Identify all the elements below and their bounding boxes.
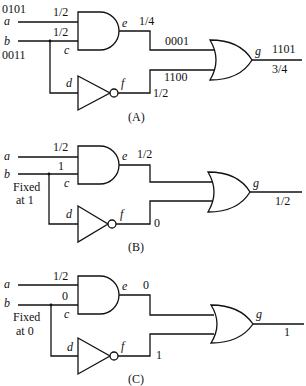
input-b-label: b xyxy=(4,167,10,181)
wire-f xyxy=(118,334,214,356)
node-g-label: g xyxy=(256,307,262,321)
panel-b: a 1/2 b 1 Fixed at 1 c e d f 1/2 0 g 1/2… xyxy=(4,140,302,254)
not-gate xyxy=(78,206,108,242)
b-bits: 0011 xyxy=(2,48,26,62)
f-prob: 1/2 xyxy=(153,86,168,100)
node-c-label: c xyxy=(64,307,70,321)
node-g-label: g xyxy=(253,176,259,190)
junction-dot xyxy=(48,173,51,176)
e-value: 0 xyxy=(143,278,149,292)
e-bits: 0001 xyxy=(165,34,189,48)
input-b-label: b xyxy=(4,296,10,310)
f-bits: 1100 xyxy=(164,70,188,84)
not-bubble xyxy=(110,352,118,360)
e-prob: 1/2 xyxy=(137,147,152,161)
f-value: 0 xyxy=(154,216,160,230)
caption-a: (A) xyxy=(128,110,145,124)
node-e-label: e xyxy=(122,279,128,293)
panel-a: 0101 a 1/2 b 1/2 0011 c e d f 1/4 0001 1… xyxy=(2,2,302,124)
junction-dot xyxy=(49,40,52,43)
node-f-label: f xyxy=(120,207,125,221)
input-a-label: a xyxy=(4,277,10,291)
node-f-label: f xyxy=(121,76,126,90)
node-d-label: d xyxy=(66,207,73,221)
input-b-label: b xyxy=(4,34,10,48)
f-value: 1 xyxy=(156,348,162,362)
input-a-label: a xyxy=(4,14,10,28)
node-d-label: d xyxy=(67,340,74,354)
wire-e xyxy=(119,295,214,315)
wire-f xyxy=(116,201,216,224)
a-prob: 1/2 xyxy=(53,140,68,154)
fixed-line1: Fixed xyxy=(13,310,40,324)
and-gate xyxy=(78,12,119,50)
g-value: 1 xyxy=(284,325,290,339)
or-gate xyxy=(211,305,253,343)
fixed-line1: Fixed xyxy=(13,180,40,194)
junction-dot xyxy=(50,304,53,307)
wire-e xyxy=(119,165,216,182)
caption-b: (B) xyxy=(128,240,144,254)
b-value: 0 xyxy=(62,289,68,303)
a-prob: 1/2 xyxy=(53,269,68,283)
node-e-label: e xyxy=(122,149,128,163)
g-prob: 3/4 xyxy=(272,62,287,76)
caption-c: (C) xyxy=(128,372,144,386)
not-bubble xyxy=(108,220,116,228)
not-gate xyxy=(78,76,110,110)
panel-c: a 1/2 b 0 Fixed at 0 c e d f 0 1 g 1 (C) xyxy=(4,269,304,386)
input-a-label: a xyxy=(4,149,10,163)
fixed-line2: at 1 xyxy=(16,193,34,207)
and-gate xyxy=(78,146,119,184)
b-value: 1 xyxy=(58,159,64,173)
node-c-label: c xyxy=(64,176,70,190)
fixed-line2: at 0 xyxy=(16,324,34,338)
node-c-label: c xyxy=(64,43,70,57)
node-e-label: e xyxy=(122,16,128,30)
g-bits: 1101 xyxy=(272,42,296,56)
not-gate xyxy=(78,338,110,374)
node-f-label: f xyxy=(121,339,126,353)
or-gate xyxy=(210,40,252,80)
and-gate xyxy=(78,276,119,314)
e-prob: 1/4 xyxy=(139,14,154,28)
node-d-label: d xyxy=(66,76,73,90)
g-prob: 1/2 xyxy=(275,194,290,208)
a-prob: 1/2 xyxy=(53,5,68,19)
not-bubble xyxy=(110,89,118,97)
node-g-label: g xyxy=(255,44,261,58)
or-gate xyxy=(208,172,250,212)
b-prob: 1/2 xyxy=(53,25,68,39)
